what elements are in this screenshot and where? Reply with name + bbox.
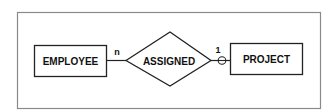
relationship-assigned: ASSIGNED xyxy=(126,32,211,86)
entity-project-label: PROJECT xyxy=(243,54,290,65)
relationship-label: ASSIGNED xyxy=(143,56,195,67)
cardinality-employee: n xyxy=(114,47,120,57)
cardinality-project: 1 xyxy=(215,45,220,55)
entity-employee-label: EMPLOYEE xyxy=(43,56,99,67)
entity-employee: EMPLOYEE xyxy=(35,46,107,77)
entity-project: PROJECT xyxy=(231,44,303,75)
er-diagram: EMPLOYEE n ASSIGNED 1 PROJECT xyxy=(0,0,334,112)
